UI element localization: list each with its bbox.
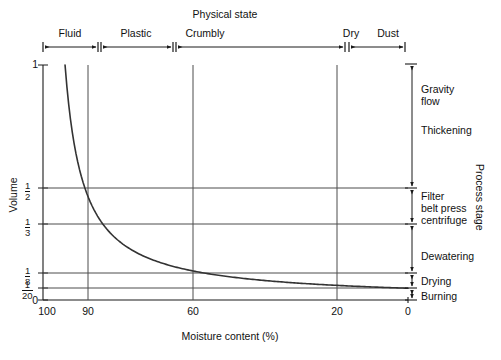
chart-root: Physical state Fluid Plastic Crumbly Dry… xyxy=(0,0,501,360)
chart-canvas xyxy=(0,0,501,360)
volume-curve xyxy=(65,65,408,288)
process-stage-scale xyxy=(405,64,417,300)
vertical-gridlines xyxy=(88,65,337,300)
horizontal-gridlines xyxy=(43,188,408,288)
physical-state-scale xyxy=(43,42,405,52)
